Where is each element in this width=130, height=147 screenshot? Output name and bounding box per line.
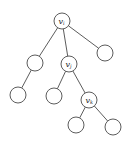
node-vk: vk [81,92,97,108]
edges-group [22,26,108,121]
tree-svg: vivjvk [0,0,130,147]
edge-vk-vk1 [80,107,86,118]
node-circle [46,88,62,104]
node-circle [68,117,84,133]
edge-vi-vj [63,29,67,56]
node-vj1 [46,88,62,104]
edge-vk-vk2 [94,106,107,121]
edge-vj-vk [73,71,85,93]
node-vi: vi [54,13,70,29]
node-a [27,55,43,71]
node-circle [105,119,121,135]
edge-vj-vj1 [57,71,65,89]
edge-vi-c [68,26,98,48]
node-vj: vj [61,56,77,72]
node-c [97,45,113,61]
edge-a-a1 [22,70,31,88]
node-circle [97,45,113,61]
node-circle [10,87,26,103]
tree-diagram: vivjvk [0,0,130,147]
edge-vi-a [39,28,57,57]
node-a1 [10,87,26,103]
node-circle [27,55,43,71]
node-vk1 [68,117,84,133]
node-vk2 [105,119,121,135]
